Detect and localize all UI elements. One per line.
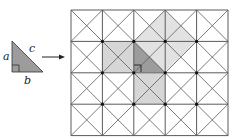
label-c: c [29, 42, 35, 55]
label-b: b [24, 74, 31, 87]
grid-node [132, 40, 135, 43]
arrow-icon [42, 55, 65, 60]
grid-node [101, 71, 104, 74]
right-triangle [12, 41, 43, 72]
grid-node [164, 103, 167, 106]
grid-node [101, 103, 104, 106]
grid-node [195, 71, 198, 74]
grid-node [132, 103, 135, 106]
label-a: a [3, 50, 10, 63]
grid-node [132, 71, 135, 74]
grid-node [164, 71, 167, 74]
grid-node [195, 103, 198, 106]
reference-triangle: a c b [3, 41, 43, 87]
grid-node [195, 40, 198, 43]
pythagorean-diagram: a c b [0, 0, 235, 139]
grid-node [164, 40, 167, 43]
grid-node [101, 40, 104, 43]
